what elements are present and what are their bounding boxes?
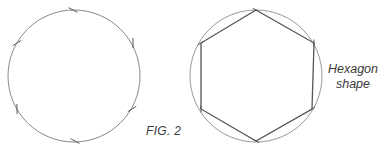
right-circle-group <box>190 8 322 142</box>
figure-caption: FIG. 2 <box>146 124 181 138</box>
tick-mark <box>71 139 80 144</box>
hexagon-shape-annotation: Hexagon shape <box>326 62 380 92</box>
hexagon <box>201 10 314 141</box>
annotation-line-2: shape <box>326 77 380 92</box>
annotation-line-1: Hexagon <box>326 62 380 77</box>
left-circle-group <box>8 8 140 144</box>
tick-mark <box>13 40 22 45</box>
diagram-canvas <box>0 0 380 147</box>
figure-2: Hexagon shape FIG. 2 <box>0 0 380 147</box>
tick-marks <box>13 8 137 144</box>
right-circle <box>190 10 322 142</box>
hexagon-vertex-marks <box>198 8 315 142</box>
left-circle <box>8 10 140 142</box>
